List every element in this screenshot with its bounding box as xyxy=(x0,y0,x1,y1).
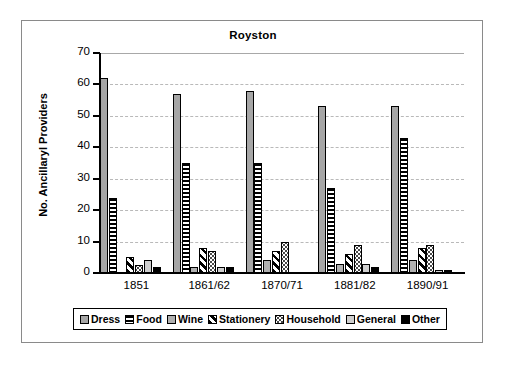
bar-group xyxy=(100,53,173,273)
y-tick-mark xyxy=(93,209,100,211)
bar-food-1890-91 xyxy=(400,138,408,273)
legend-item-stationery[interactable]: Stationery xyxy=(208,314,270,325)
bar-stationery-1861-62 xyxy=(199,248,207,273)
bar-dress-1870-71 xyxy=(246,91,254,273)
x-tick-label: 1870/71 xyxy=(246,279,319,291)
legend-swatch-icon xyxy=(125,315,134,324)
bar-stationery-1851 xyxy=(126,257,134,273)
x-tick-label: 1851 xyxy=(100,279,173,291)
bar-group xyxy=(173,53,246,273)
x-tick-label: 1881/82 xyxy=(318,279,391,291)
bar-food-1870-71 xyxy=(254,163,262,273)
chart-title: Royston xyxy=(22,29,484,41)
y-tick-mark xyxy=(93,178,100,180)
bar-group xyxy=(246,53,319,273)
legend-swatch-icon xyxy=(167,315,176,324)
y-tick-label: 10 xyxy=(50,235,90,247)
chart-frame: Royston No. Ancillaryl Providers 7060504… xyxy=(21,20,483,343)
legend-label: Household xyxy=(286,314,340,325)
legend-item-general[interactable]: General xyxy=(346,314,396,325)
legend-swatch-icon xyxy=(80,315,89,324)
bar-group xyxy=(318,53,391,273)
bar-dress-1861-62 xyxy=(173,94,181,273)
y-tick-mark xyxy=(93,272,100,274)
bar-household-1870-71 xyxy=(281,242,289,273)
bar-household-1881-82 xyxy=(354,245,362,273)
y-tick-mark xyxy=(93,52,100,54)
y-tick-label: 20 xyxy=(50,203,90,215)
bar-food-1881-82 xyxy=(327,188,335,273)
bar-stationery-1881-82 xyxy=(345,254,353,273)
legend-item-wine[interactable]: Wine xyxy=(167,314,203,325)
legend-label: General xyxy=(357,314,396,325)
bar-group xyxy=(391,53,464,273)
bar-dress-1881-82 xyxy=(318,106,326,273)
legend-label: Stationery xyxy=(219,314,270,325)
y-tick-label: 30 xyxy=(50,172,90,184)
legend-item-other[interactable]: Other xyxy=(401,314,440,325)
plot-area xyxy=(100,53,464,273)
legend-label: Other xyxy=(412,314,440,325)
legend-item-food[interactable]: Food xyxy=(125,314,162,325)
legend-label: Wine xyxy=(178,314,203,325)
legend-swatch-icon xyxy=(275,315,284,324)
chart-legend: DressFoodWineStationeryHouseholdGeneralO… xyxy=(73,308,447,330)
legend-item-dress[interactable]: Dress xyxy=(80,314,120,325)
bar-dress-1851 xyxy=(100,78,108,273)
x-axis-labels: 18511861/621870/711881/821890/91 xyxy=(100,279,464,299)
bar-food-1861-62 xyxy=(182,163,190,273)
bar-stationery-1870-71 xyxy=(272,251,280,273)
bar-stationery-1890-91 xyxy=(418,248,426,273)
y-tick-label: 40 xyxy=(50,140,90,152)
y-axis-ticks: 706050403020100 xyxy=(22,21,90,344)
y-tick-mark xyxy=(93,146,100,148)
bar-household-1890-91 xyxy=(426,245,434,273)
y-tick-label: 0 xyxy=(50,266,90,278)
x-tick-label: 1861/62 xyxy=(173,279,246,291)
bar-food-1851 xyxy=(109,198,117,273)
y-tick-mark xyxy=(93,83,100,85)
legend-item-household[interactable]: Household xyxy=(275,314,340,325)
legend-swatch-icon xyxy=(401,315,410,324)
legend-swatch-icon xyxy=(208,315,217,324)
y-tick-mark xyxy=(93,241,100,243)
x-tick-label: 1890/91 xyxy=(391,279,464,291)
legend-label: Food xyxy=(136,314,162,325)
y-tick-mark xyxy=(93,115,100,117)
y-tick-label: 70 xyxy=(50,46,90,58)
bar-household-1861-62 xyxy=(208,251,216,273)
legend-swatch-icon xyxy=(346,315,355,324)
legend-label: Dress xyxy=(91,314,120,325)
bar-dress-1890-91 xyxy=(391,106,399,273)
x-axis-line xyxy=(99,272,465,274)
y-tick-label: 60 xyxy=(50,77,90,89)
y-tick-label: 50 xyxy=(50,109,90,121)
